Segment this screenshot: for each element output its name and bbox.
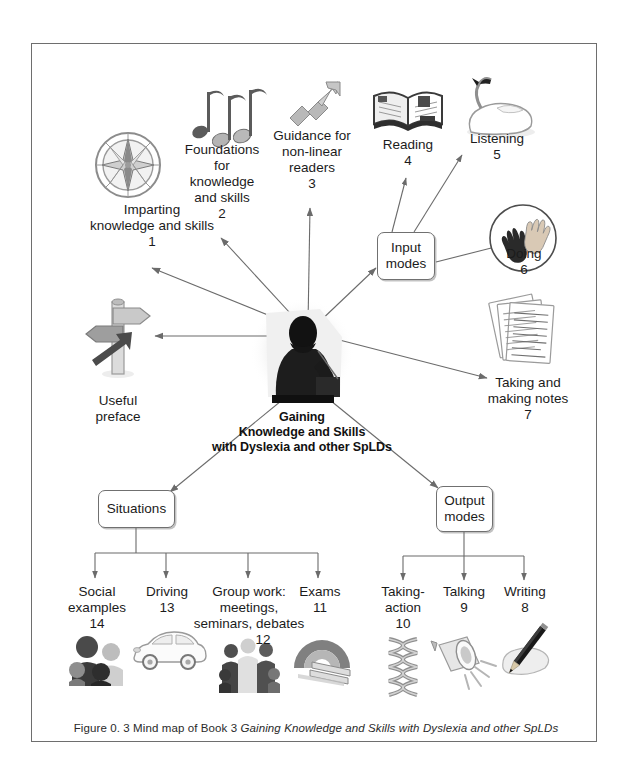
input-modes-line1: Input <box>391 240 421 255</box>
node-taking-action-number: 10 <box>368 616 438 632</box>
node-talking: Talking 9 <box>432 584 496 616</box>
situations-label: Situations <box>107 501 166 517</box>
node-talking-line1: Talking <box>443 584 485 599</box>
hub-title-line2: Knowledge and Skills <box>239 425 366 439</box>
node-group-work-number: 12 <box>255 632 270 647</box>
node-group-work-line3: seminars, debates <box>194 616 304 631</box>
node-taking-action-line1: Taking- <box>381 584 425 599</box>
node-doing-number: 6 <box>486 262 562 278</box>
hub-title-line1: Gaining <box>279 410 325 424</box>
node-listening-number: 5 <box>452 147 542 163</box>
node-driving-line1: Driving <box>146 584 188 599</box>
node-taking-action: Taking- action 10 <box>368 584 438 632</box>
node-exams: Exams 11 <box>288 584 352 616</box>
node-taking-action-line2: action <box>385 600 421 615</box>
output-modes-line1: Output <box>444 493 485 508</box>
node-doing-line1: Doing <box>506 246 541 261</box>
output-modes-label: Output modes <box>444 493 485 525</box>
node-reading: Reading 4 <box>365 137 451 169</box>
output-modes-line2: modes <box>444 509 485 524</box>
node-reading-line1: Reading <box>383 137 433 152</box>
node-social-number: 14 <box>55 616 139 632</box>
hub-title: Gaining Knowledge and Skills with Dyslex… <box>172 410 432 455</box>
node-foundations: Foundations for knowledge and skills 2 <box>176 142 268 222</box>
node-guidance: Guidance for non-linear readers 3 <box>258 128 366 192</box>
input-modes-label: Input modes <box>386 240 427 272</box>
situations-box[interactable]: Situations <box>98 490 175 528</box>
node-group-work-line2: meetings, <box>220 600 279 615</box>
node-notes: Taking and making notes 7 <box>466 375 590 423</box>
node-exams-line1: Exams <box>299 584 340 599</box>
node-guidance-number: 3 <box>258 176 366 192</box>
node-guidance-line2: non-linear <box>282 144 342 159</box>
node-foundations-line4: and skills <box>194 190 250 205</box>
figure-caption: Figure 0. 3 Mind map of Book 3 Gaining K… <box>46 722 586 734</box>
node-talking-number: 9 <box>432 600 496 616</box>
node-foundations-number: 2 <box>176 206 268 222</box>
node-useful-preface: Useful preface <box>73 393 163 425</box>
node-writing-line1: Writing <box>504 584 546 599</box>
figure-caption-prefix: Figure 0. 3 Mind map of Book 3 <box>74 722 237 734</box>
node-group-work-line1: Group work: <box>212 584 286 599</box>
node-writing-number: 8 <box>492 600 558 616</box>
node-notes-line2: making notes <box>488 391 568 406</box>
node-reading-number: 4 <box>365 153 451 169</box>
node-imparting-line1: Imparting <box>124 202 180 217</box>
node-listening-line1: Listening <box>470 131 524 146</box>
input-modes-line2: modes <box>386 256 427 271</box>
node-social-line1: Social <box>79 584 116 599</box>
node-imparting-number: 1 <box>62 234 242 250</box>
node-social-examples: Social examples 14 <box>55 584 139 632</box>
node-doing: Doing 6 <box>486 246 562 278</box>
output-modes-box[interactable]: Output modes <box>436 486 493 532</box>
node-foundations-line2: for <box>214 158 230 173</box>
node-notes-line1: Taking and <box>495 375 560 390</box>
node-listening: Listening 5 <box>452 131 542 163</box>
node-notes-number: 7 <box>466 407 590 423</box>
figure-caption-title: Gaining Knowledge and Skills with Dyslex… <box>241 722 559 734</box>
node-foundations-line3: knowledge <box>190 174 255 189</box>
node-guidance-line1: Guidance for <box>273 128 350 143</box>
node-writing: Writing 8 <box>492 584 558 616</box>
input-modes-box[interactable]: Input modes <box>377 232 435 280</box>
node-guidance-line3: readers <box>289 160 335 175</box>
node-exams-number: 11 <box>288 600 352 616</box>
node-useful-preface-line2: preface <box>95 409 140 424</box>
node-useful-preface-line1: Useful <box>99 393 137 408</box>
node-social-line2: examples <box>68 600 126 615</box>
hub-title-line3: with Dyslexia and other SpLDs <box>212 440 392 454</box>
node-group-work-number-wrap: 12 <box>243 632 283 648</box>
node-foundations-line1: Foundations <box>185 142 259 157</box>
figure-page: Input modes Situations Output modes Impa… <box>0 0 635 781</box>
